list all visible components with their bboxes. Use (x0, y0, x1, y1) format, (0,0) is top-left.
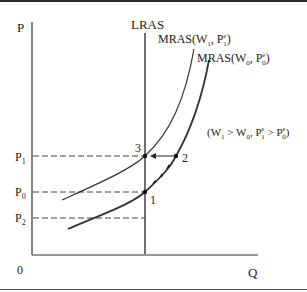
y-axis-label: P (17, 20, 24, 35)
arrow-head-left (150, 153, 156, 159)
point-2-label: 2 (182, 151, 188, 165)
point-2 (174, 154, 178, 158)
point-3-label: 3 (135, 141, 141, 155)
mras1-label: MRAS(W1, Pe1) (158, 32, 231, 48)
p1-label: P1 (15, 150, 26, 166)
condition-annotation: (W1 > W0, Pe1 > Pe0) (207, 126, 290, 141)
x-axis-label: Q (248, 265, 258, 280)
point-1-label: 1 (150, 193, 156, 207)
lras-label: LRAS (131, 17, 164, 32)
mras0-label: MRAS(W0, Pe0) (197, 51, 270, 67)
point-3 (143, 154, 147, 158)
p0-label: P0 (15, 185, 26, 201)
lras-mras-diagram: P Q 0 P1 P0 P2 LRAS MRAS(W1, Pe1) MRAS(W… (0, 0, 307, 292)
origin-label: 0 (17, 263, 23, 277)
p2-label: P2 (15, 211, 26, 227)
mras1-curve (62, 49, 194, 200)
point-1 (143, 190, 147, 194)
